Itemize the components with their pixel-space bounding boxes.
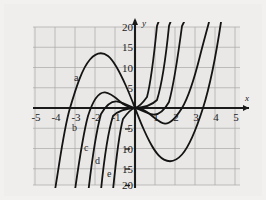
x-tick-label: 2 xyxy=(173,111,179,123)
curve-label-e: e xyxy=(107,168,112,179)
y-tick-label: 5 xyxy=(128,122,134,134)
graph-figure: -5 -4 -3 -2 -1 1 2 3 4 5 20 15 10 5 5 10… xyxy=(0,0,266,200)
x-tick-label: 3 xyxy=(193,111,199,123)
y-tick-label: 10 xyxy=(122,62,134,74)
curve-label-b: b xyxy=(72,122,77,133)
x-tick-label: 5 xyxy=(233,111,239,123)
y-tick-label: 20 xyxy=(122,21,134,33)
curve-label-c: c xyxy=(84,142,89,153)
x-axis-name-label: x xyxy=(244,93,249,103)
y-tick-label: 15 xyxy=(122,41,134,53)
x-tick-label: -1 xyxy=(111,111,120,123)
curve-label-a: a xyxy=(74,72,79,83)
x-tick-label: -5 xyxy=(31,111,41,123)
x-tick-label: 4 xyxy=(213,111,219,123)
x-tick-label: 1 xyxy=(153,111,159,123)
x-tick-label: -4 xyxy=(51,111,61,123)
y-tick-label: 5 xyxy=(128,82,134,94)
cubic-functions-graph: -5 -4 -3 -2 -1 1 2 3 4 5 20 15 10 5 5 10… xyxy=(0,0,266,200)
x-tick-label: -2 xyxy=(91,111,100,123)
plot-panel xyxy=(33,27,240,185)
y-axis-name-label: y xyxy=(141,18,146,28)
curve-label-d: d xyxy=(95,155,100,166)
